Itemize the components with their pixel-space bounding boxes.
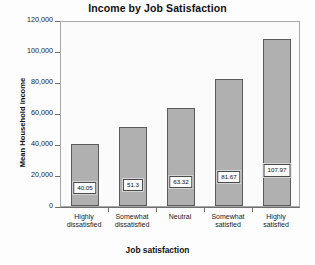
x-axis-tick-mark [156,207,157,212]
bar-value-label: 63.32 [169,176,192,188]
x-axis-tick-label: Highlysatisfied [252,213,300,230]
bar-slot: 51.3 [119,22,148,206]
x-axis-tick-mark [204,207,205,212]
x-axis-tick-label: Highlydissatisfied [60,213,108,230]
bar-value-label: 40.05 [73,182,96,194]
x-axis-tick-label: Somewhatdissatisfied [108,213,156,230]
y-axis-tick-label: 20,000 [1,170,53,179]
x-axis-title: Job satisfaction [0,245,315,255]
bar-slot: 107.97 [263,22,292,206]
y-axis-tick-label: 60,000 [1,108,53,117]
bar[interactable]: 51.3 [119,127,148,207]
y-axis-tick-label: 120,000 [1,15,53,24]
bar[interactable]: 107.97 [263,39,292,206]
bar-value-label: 81.67 [217,171,240,183]
x-axis-tick-mark [108,207,109,212]
bar-slot: 40.05 [71,22,100,206]
bar-slot: 81.67 [215,22,244,206]
bar[interactable]: 81.67 [215,79,244,206]
bars-layer: 40.0551.363.3281.67107.97 [61,22,299,206]
y-axis-tick-label: 0 [1,201,53,210]
x-axis-tick-mark [252,207,253,212]
chart-title: Income by Job Satisfaction [0,2,315,14]
bar[interactable]: 63.32 [167,108,196,206]
x-axis-tick-label: Somewhatsatisfied [204,213,252,230]
bar-value-label: 51.3 [123,179,143,191]
bar-slot: 63.32 [167,22,196,206]
y-axis-tick-label: 40,000 [1,139,53,148]
y-axis-tick-label: 100,000 [1,46,53,55]
y-axis-tick-label: 80,000 [1,77,53,86]
x-axis-line [60,207,300,208]
bar[interactable]: 40.05 [71,144,100,206]
bar-value-label: 107.97 [264,164,291,176]
plot-area: 40.0551.363.3281.67107.97 [60,21,300,207]
chart-container: Income by Job Satisfaction Mean Househol… [0,0,315,265]
x-axis-tick-label: Neutral [156,213,204,221]
